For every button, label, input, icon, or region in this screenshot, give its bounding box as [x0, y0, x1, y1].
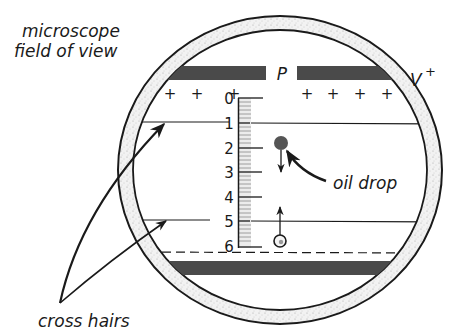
- oil-drop-label: oil drop: [333, 173, 397, 193]
- scale-tick-label: 1: [224, 115, 234, 133]
- plate-label: P: [277, 64, 288, 84]
- scale-tick-label: 2: [224, 140, 234, 158]
- scale-tick-label: 5: [224, 213, 234, 231]
- voltage-label: V: [410, 70, 423, 90]
- charge-plus: +: [327, 85, 340, 103]
- scale-tick-label: 6: [224, 238, 234, 256]
- eyepiece-ring: [118, 16, 442, 324]
- top-plate-left: [120, 66, 266, 80]
- scale-tick-label: 3: [224, 164, 234, 182]
- scale-tick-label: 4: [224, 189, 234, 207]
- cross-hairs-label: cross hairs: [38, 311, 130, 331]
- charge-plus: +: [381, 85, 394, 103]
- field-of-view-label-line2: field of view: [14, 41, 117, 61]
- charge-plus: +: [191, 85, 204, 103]
- field-of-view-label-line1: microscope: [22, 21, 120, 41]
- charge-plus: +: [354, 85, 367, 103]
- charge-plus: +: [164, 85, 177, 103]
- millikan-microscope-diagram: + + + + + + + P V +: [0, 0, 463, 335]
- voltage-sign: +: [425, 64, 436, 79]
- scale-tick-label: 0: [224, 90, 234, 108]
- charge-plus: +: [301, 85, 314, 103]
